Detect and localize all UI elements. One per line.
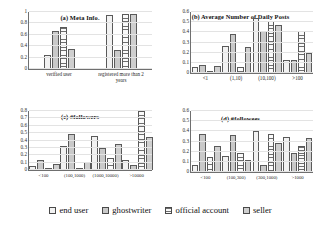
- x-axis-label: <100: [190, 175, 221, 181]
- legend-label: seller: [253, 205, 272, 215]
- y-axis-tick: 0.4: [21, 138, 27, 143]
- gridline: 0.1: [191, 62, 313, 63]
- gridline: 0: [191, 171, 313, 172]
- y-axis-tick: 0.2: [183, 50, 189, 55]
- legend-item: official account: [165, 205, 229, 215]
- bar: [222, 156, 229, 172]
- x-axis-label: (1,10): [221, 76, 252, 82]
- gridline: 0.3: [29, 147, 152, 148]
- bar: [114, 50, 121, 69]
- gridline: 0.4: [191, 31, 313, 32]
- y-axis-tick: 0: [186, 70, 189, 75]
- gridline: 0.8: [29, 22, 152, 23]
- gridline: 0: [29, 68, 152, 69]
- gridline: 0.6: [29, 125, 152, 126]
- panel-a-bars: [29, 12, 152, 69]
- y-axis-tick: 0: [24, 66, 27, 71]
- y-axis-tick: 1: [24, 9, 27, 14]
- panel-d: (d) #followees 00.10.20.30.40.50.6 <100(…: [160, 101, 321, 196]
- gridline: 0.7: [29, 117, 152, 118]
- x-axis-label: (300,1000): [252, 175, 283, 181]
- panel-b: (b) Average Number of Daily Posts 00.10.…: [160, 0, 321, 101]
- bar: [253, 131, 260, 172]
- gridline: 0.2: [191, 151, 313, 152]
- x-axis-label: >1000: [282, 175, 313, 181]
- panel-c-xlabels: <100(100,1000)(1000,10000)>10000: [28, 173, 152, 179]
- bar: [306, 138, 313, 172]
- bar-group: [44, 12, 75, 69]
- y-axis-tick: 0.2: [21, 153, 27, 158]
- gridline: 0.2: [29, 154, 152, 155]
- bar-group: [106, 12, 137, 69]
- bar: [60, 146, 67, 170]
- legend-swatch-icon: [243, 207, 250, 214]
- bar: [222, 46, 229, 73]
- y-axis-tick: 0.4: [183, 30, 189, 35]
- gridline: 0.3: [191, 141, 313, 142]
- panel-a-xlabels: verified userregistered more than 2 year…: [28, 72, 152, 84]
- legend-item: seller: [243, 205, 272, 215]
- y-axis-tick: 0.2: [183, 149, 189, 154]
- x-axis-label: <1: [190, 76, 221, 82]
- x-axis-label: <100: [28, 173, 59, 179]
- legend-label: official account: [175, 205, 229, 215]
- gridline: 0: [29, 169, 152, 170]
- x-axis-label: >100: [282, 76, 313, 82]
- x-axis-label: verified user: [28, 72, 90, 84]
- y-axis-tick: 0.4: [21, 44, 27, 49]
- legend-swatch-icon: [49, 207, 56, 214]
- y-axis-tick: 0.1: [21, 160, 27, 165]
- bar: [298, 146, 305, 172]
- gridline: 0.3: [191, 42, 313, 43]
- panel-d-xlabels: <100(100,300)(300,1000)>1000: [190, 175, 313, 181]
- bar: [115, 144, 122, 170]
- y-axis-tick: 0.3: [21, 145, 27, 150]
- y-axis-tick: 0.5: [21, 131, 27, 136]
- y-axis-tick: 0.3: [183, 139, 189, 144]
- y-axis-tick: 0.6: [183, 108, 189, 113]
- bar: [207, 157, 214, 172]
- gridline: 0.6: [191, 11, 313, 12]
- y-axis-tick: 0.3: [183, 40, 189, 45]
- y-axis-tick: 0.2: [21, 55, 27, 60]
- chart-legend: end userghostwriterofficial accountselle…: [0, 198, 321, 222]
- y-axis-tick: 0.5: [183, 119, 189, 124]
- bar: [237, 153, 244, 172]
- y-axis-tick: 0.8: [21, 21, 27, 26]
- bar: [253, 18, 260, 73]
- bar: [91, 136, 98, 170]
- chart-grid: (a) Meta Info. 00.20.40.60.81 verified u…: [0, 0, 321, 196]
- gridline: 0.2: [29, 57, 152, 58]
- panel-d-plot: 00.10.20.30.40.50.6: [190, 111, 313, 173]
- gridline: 0.6: [191, 110, 313, 111]
- y-axis-tick: 0.1: [183, 159, 189, 164]
- panel-b-xlabels: <1(1,10)(10,100)>100: [190, 76, 313, 82]
- panel-b-plot: 00.10.20.30.40.50.6: [190, 12, 313, 74]
- gridline: 0.4: [29, 140, 152, 141]
- bar: [245, 47, 252, 73]
- gridline: 0.8: [29, 110, 152, 111]
- x-axis-label: (1000,10000): [90, 173, 121, 179]
- gridline: 0.4: [191, 130, 313, 131]
- gridline: 0.4: [29, 45, 152, 46]
- gridline: 0.5: [191, 120, 313, 121]
- panel-a-plot: 00.20.40.60.81: [28, 12, 152, 70]
- y-axis-tick: 0.8: [21, 108, 27, 113]
- gridline: 0.1: [191, 161, 313, 162]
- y-axis-tick: 0.6: [21, 123, 27, 128]
- panel-c-plot: 00.10.20.30.40.50.60.70.8: [28, 111, 152, 171]
- x-axis-label: (100,300): [221, 175, 252, 181]
- y-axis-tick: 0.1: [183, 60, 189, 65]
- bar: [68, 49, 75, 69]
- y-axis-tick: 0.4: [183, 129, 189, 134]
- y-axis-tick: 0.5: [183, 20, 189, 25]
- y-axis-tick: 0.6: [21, 32, 27, 37]
- gridline: 0.1: [29, 162, 152, 163]
- legend-swatch-icon: [165, 207, 172, 214]
- legend-label: ghostwriter: [112, 205, 151, 215]
- y-axis-tick: 0.7: [21, 116, 27, 121]
- panel-c: (c) #followers 00.10.20.30.40.50.60.70.8…: [0, 101, 160, 196]
- x-axis-label: >10000: [121, 173, 152, 179]
- bar: [291, 153, 298, 172]
- bar: [275, 143, 282, 172]
